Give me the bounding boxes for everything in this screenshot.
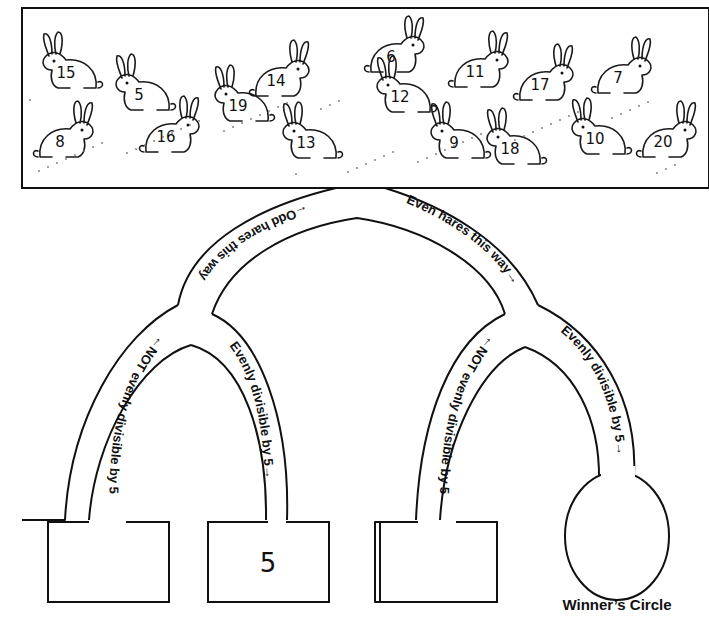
- hare-number: 7: [613, 69, 623, 87]
- hare-number: 18: [500, 140, 519, 158]
- winners-circle: [565, 472, 669, 600]
- hare-number: 17: [530, 76, 549, 94]
- hare-number: 16: [156, 128, 175, 146]
- hare-number: 12: [390, 88, 409, 106]
- hare-number: 13: [296, 134, 315, 152]
- hare-number: 10: [585, 130, 604, 148]
- hare-number: 15: [56, 64, 75, 82]
- hare-number: 14: [266, 72, 285, 90]
- label-odd-div5: Evenly divisible by 5→: [227, 339, 277, 479]
- hare-number: 8: [55, 133, 65, 151]
- hare-number: 11: [465, 63, 484, 81]
- box-even-not-div5: [380, 522, 497, 602]
- label-even-path: Even hares this way→: [404, 192, 523, 287]
- sorting-diagram: ←Odd hares this way Even hares this way→…: [0, 0, 709, 618]
- winners-circle-label: Winner’s Circle: [562, 596, 671, 613]
- hare-number: 20: [653, 133, 672, 151]
- box-odd-not-div5: [48, 522, 169, 602]
- hare-number: 19: [228, 97, 247, 115]
- box-value-odd-div5: 5: [260, 548, 277, 578]
- label-even-not-div5: ←NOT evenly divisible by 5: [437, 334, 499, 495]
- hare-number: 5: [134, 86, 144, 104]
- hare-pen: [22, 8, 709, 188]
- label-odd-path: ←Odd hares this way: [196, 202, 311, 284]
- label-odd-not-div5: ←NOT evenly divisible by 5: [106, 334, 168, 494]
- hare-number: 9: [449, 134, 459, 152]
